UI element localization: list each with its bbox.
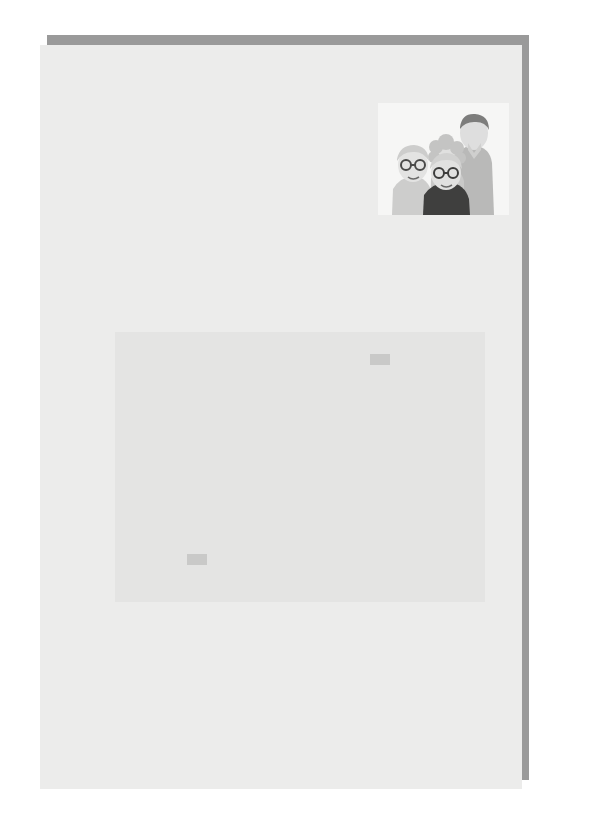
- y-axis-tick-labels: [64, 332, 109, 602]
- population-chart: [58, 322, 508, 662]
- area-series-3d: [115, 332, 485, 602]
- callout-end: [370, 354, 390, 365]
- chart-plot-area: [115, 332, 485, 602]
- callout-start: [187, 554, 207, 565]
- photo-illustration: [378, 103, 509, 215]
- senior-family-photo: [378, 103, 509, 215]
- figure-card: [40, 45, 522, 789]
